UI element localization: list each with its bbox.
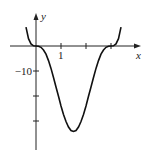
y-axis-label: y (40, 10, 46, 22)
series-line-f (26, 27, 121, 131)
x-tick-label: 1 (58, 49, 64, 61)
axes (10, 13, 141, 150)
y-tick-label: −10 (15, 65, 33, 77)
chart: 1−10 x y (0, 0, 147, 154)
x-axis-label: x (135, 49, 141, 61)
ticks: 1−10 (15, 43, 111, 121)
x-axis-arrow (134, 44, 141, 49)
y-axis-arrow (34, 13, 39, 20)
